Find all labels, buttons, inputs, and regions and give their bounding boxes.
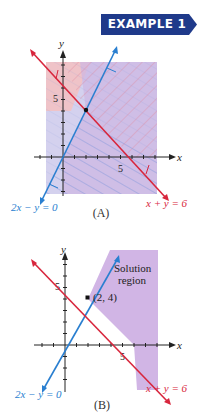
blue-line-label: 2x − y = 0 xyxy=(11,201,58,213)
blue-line xyxy=(43,258,118,390)
x-axis-label: x xyxy=(176,151,182,163)
blue-line-label: 2x − y = 0 xyxy=(15,388,62,400)
red-line-label: x + y = 6 xyxy=(145,382,188,394)
y-axis-label: y xyxy=(58,37,64,49)
graph-b: x y 5 5 (2, 4) Solution region x + y = 6… xyxy=(0,222,206,413)
caption-b: (B) xyxy=(82,398,122,413)
graph-a: x y 5 5 x + y = 6 2x − y = 0 xyxy=(0,0,206,222)
region-label-line1: Solution xyxy=(114,262,152,274)
y-axis-label: y xyxy=(60,243,66,255)
point-label: (2, 4) xyxy=(93,291,117,304)
x-tick-5: 5 xyxy=(118,163,123,174)
intersection-point xyxy=(84,108,88,112)
y-tick-5: 5 xyxy=(53,93,58,104)
x-axis-label: x xyxy=(176,339,182,351)
intersection-point xyxy=(86,296,90,300)
red-line-label: x + y = 6 xyxy=(145,197,188,209)
caption-a: (A) xyxy=(81,206,121,221)
region-label-line2: region xyxy=(118,274,147,286)
